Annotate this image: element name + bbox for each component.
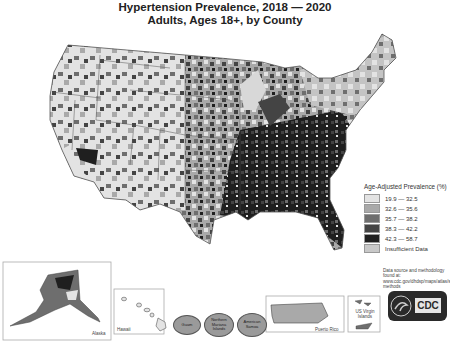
legend-item: 35.7 — 38.2	[364, 214, 450, 224]
legend-item: Insufficient Data	[364, 244, 450, 254]
cdc-logo: CDC	[388, 291, 447, 321]
map-title: Hypertension Prevalence, 2018 — 2020	[0, 1, 450, 13]
hawaii-label: Hawaii	[117, 327, 131, 332]
cdc-logo-text: CDC	[415, 298, 441, 313]
map-subtitle: Adults, Ages 18+, by County	[0, 14, 450, 26]
legend-item: 42.3 — 58.7	[364, 234, 450, 244]
american-samoa-label: American Samoa	[237, 313, 267, 337]
alaska-label: Alaska	[92, 331, 106, 336]
source-note: Data source and methodology found at: ww…	[383, 268, 447, 289]
legend-item: 19.9 — 32.5	[364, 194, 450, 204]
us-county-map	[0, 0, 450, 343]
northern-mariana-label: Northern Mariana Islands	[204, 313, 234, 337]
legend-item: 38.3 — 42.2	[364, 224, 450, 234]
guam-label: Guam	[173, 315, 201, 335]
hhs-eagle-icon	[388, 291, 414, 321]
legend: Age-Adjusted Prevalence (%) 19.9 — 32.5 …	[364, 183, 450, 254]
legend-title: Age-Adjusted Prevalence (%)	[364, 183, 450, 191]
legend-item: 32.6 — 35.6	[364, 204, 450, 214]
virgin-islands-label: US Virgin Islands	[353, 309, 377, 319]
puerto-rico-label: Puerto Rico	[315, 327, 339, 332]
